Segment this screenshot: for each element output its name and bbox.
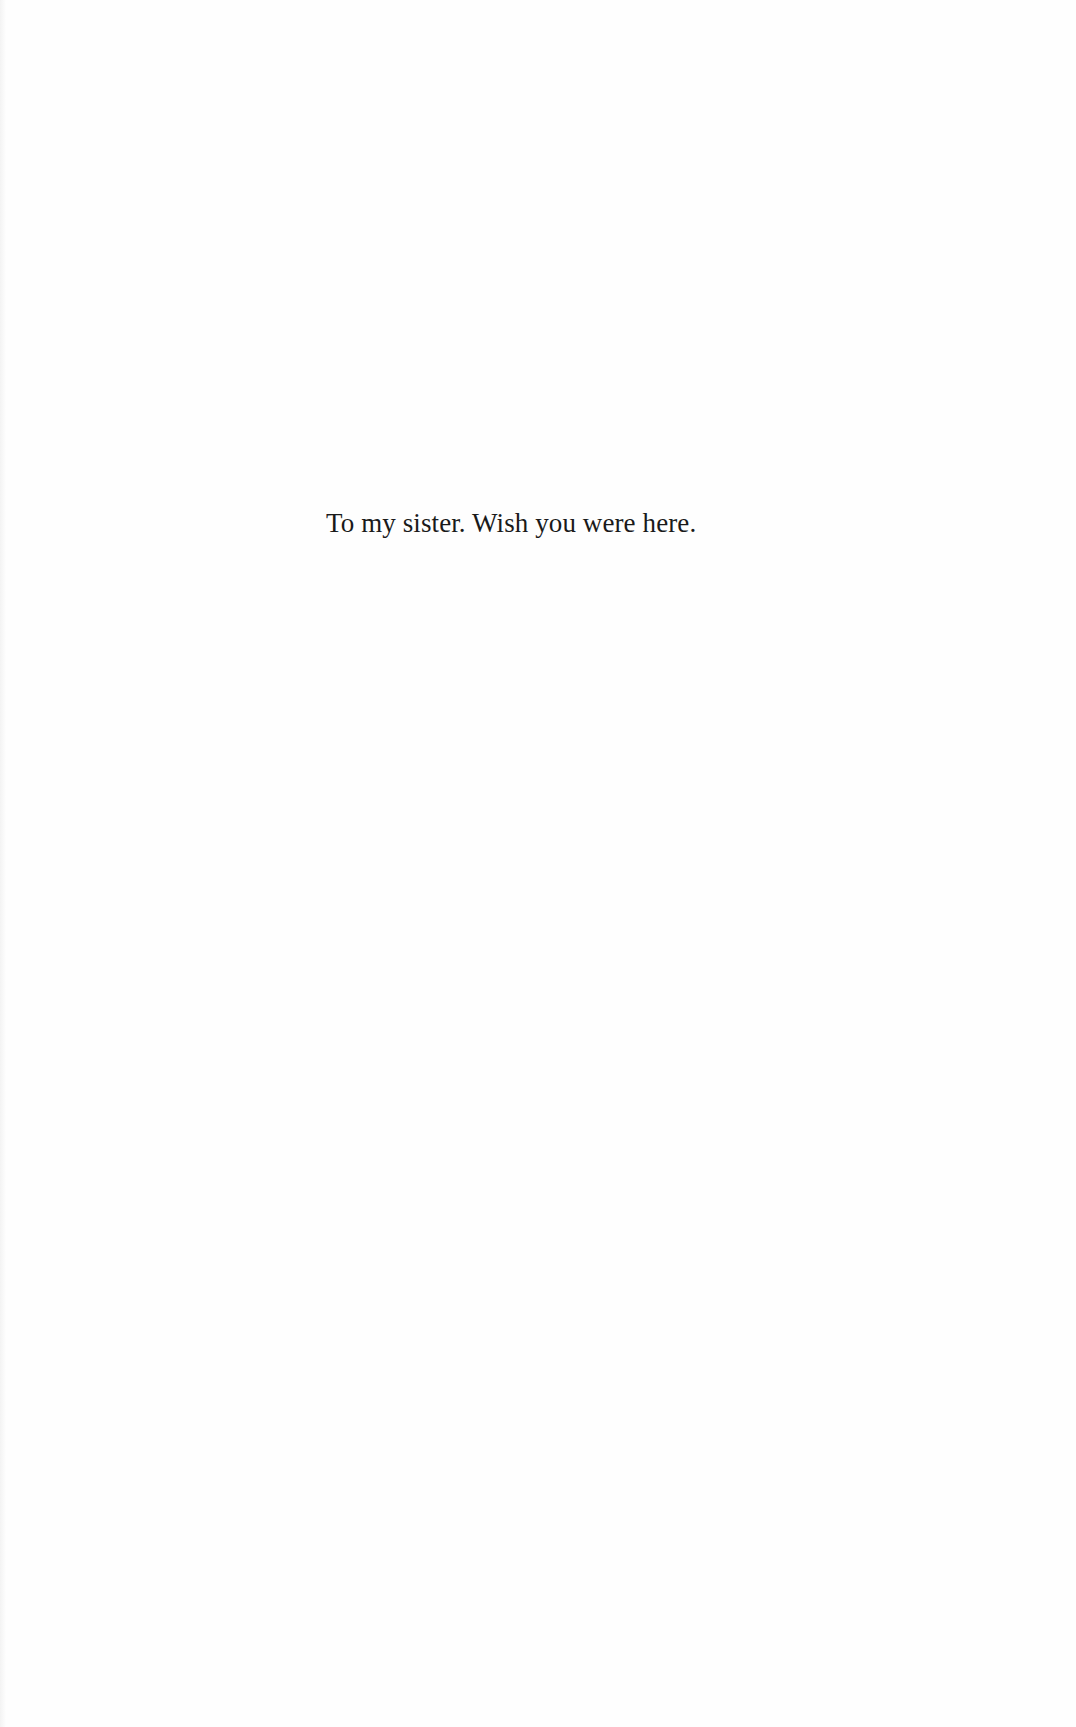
book-page: To my sister. Wish you were here. [0, 0, 1076, 1727]
page-edge-shadow [0, 0, 6, 1727]
dedication-text: To my sister. Wish you were here. [326, 505, 726, 541]
